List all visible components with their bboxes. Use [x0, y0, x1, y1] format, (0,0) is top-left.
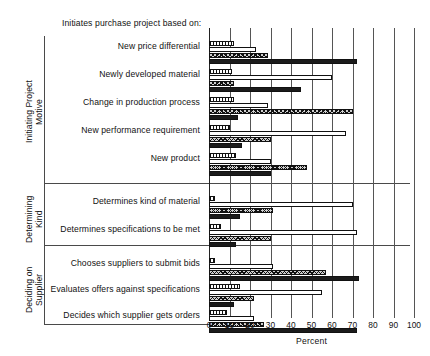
- bar-row2-series2: [209, 103, 268, 108]
- bar-row3-series3: [209, 137, 271, 142]
- bar-row8-series2: [209, 290, 322, 295]
- row-label-change-in-production-process: Change in production process: [0, 97, 200, 107]
- bar-row4-series1: [209, 153, 236, 158]
- x-tick-20: 20: [245, 320, 254, 330]
- row-label-decides-which-supplier: Decides which supplier gets orders: [0, 310, 200, 320]
- bar-row3-series4: [209, 143, 242, 148]
- row-label-chooses-suppliers: Chooses suppliers to submit bids: [0, 258, 200, 268]
- row-label-newly-developed-material: Newly developed material: [0, 69, 200, 79]
- gridline-60: [332, 28, 333, 318]
- row-label-new-performance-requirement: New performance requirement: [0, 125, 200, 135]
- gridline-90: [394, 28, 395, 318]
- gridline-80: [373, 28, 374, 318]
- bar-row2-series1: [209, 97, 234, 102]
- bar-row7-series3: [209, 270, 326, 275]
- bar-row4-series4: [209, 171, 271, 176]
- row-label-evaluates-offers: Evaluates offers against specifications: [0, 284, 200, 294]
- bar-row3-series1: [209, 125, 230, 130]
- x-axis-ticks: 0102030405060708090100: [209, 320, 414, 332]
- x-tick-30: 30: [266, 320, 275, 330]
- bar-row1-series1: [209, 69, 232, 74]
- bar-row0-series2: [209, 47, 256, 52]
- row-label-column: New price differential Newly developed m…: [0, 0, 200, 356]
- x-tick-70: 70: [348, 320, 357, 330]
- x-tick-90: 90: [389, 320, 398, 330]
- x-axis-label: Percent: [209, 336, 414, 346]
- bar-row0-series1: [209, 41, 234, 46]
- bar-row7-series2: [209, 264, 273, 269]
- bar-row1-series3: [209, 81, 234, 86]
- bar-row4-series2: [209, 159, 271, 164]
- row-label-new-product: New product: [0, 153, 200, 163]
- x-tick-100: 100: [407, 320, 421, 330]
- x-tick-60: 60: [327, 320, 336, 330]
- x-tick-80: 80: [368, 320, 377, 330]
- bar-row7-series4: [209, 276, 359, 281]
- chart-root: Initiates purchase project based on: Ini…: [0, 0, 430, 356]
- bar-row7-series1: [209, 258, 215, 263]
- row-label-new-price-differential: New price differential: [0, 41, 200, 51]
- bar-row1-series2: [209, 75, 332, 80]
- bar-row6-series4: [209, 242, 236, 247]
- bar-row2-series4: [209, 115, 238, 120]
- bar-row1-series4: [209, 87, 301, 92]
- x-tick-40: 40: [286, 320, 295, 330]
- bar-row4-series3: [209, 165, 307, 170]
- bar-row5-series3: [209, 208, 273, 213]
- bar-row2-series3: [209, 109, 353, 114]
- bar-row9-series1: [209, 310, 227, 315]
- row-label-determines-specifications: Determines specifications to be met: [0, 224, 200, 234]
- bar-row8-series4: [209, 302, 234, 307]
- bar-row5-series2: [209, 202, 353, 207]
- bar-row0-series3: [209, 53, 268, 58]
- bar-row5-series1: [209, 196, 215, 201]
- x-tick-10: 10: [225, 320, 234, 330]
- row-label-determines-kind-of-material: Determines kind of material: [0, 196, 200, 206]
- x-tick-50: 50: [307, 320, 316, 330]
- x-tick-0: 0: [207, 320, 212, 330]
- bar-row0-series4: [209, 59, 357, 64]
- bar-row6-series2: [209, 230, 357, 235]
- bar-row8-series3: [209, 296, 254, 301]
- gridline-100: [414, 28, 415, 318]
- bar-row6-series3: [209, 236, 271, 241]
- bar-row5-series4: [209, 214, 240, 219]
- bar-row8-series1: [209, 284, 240, 289]
- bar-row3-series2: [209, 131, 346, 136]
- gridline-70: [353, 28, 354, 318]
- bar-row6-series1: [209, 224, 221, 229]
- plot-area: [209, 28, 414, 318]
